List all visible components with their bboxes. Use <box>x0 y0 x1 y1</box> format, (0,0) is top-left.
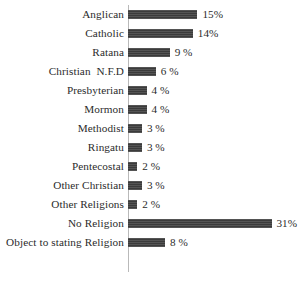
category-label: Catholic <box>0 24 128 43</box>
category-label: Other Christian <box>0 176 128 195</box>
category-label: Other Religions <box>0 195 128 214</box>
bar <box>128 181 142 190</box>
bar-track: 3 % <box>128 176 308 195</box>
bar-track: 8 % <box>128 233 308 252</box>
bar <box>128 29 193 38</box>
data-value-label: 3 % <box>147 119 165 138</box>
bar-row: Mormon4 % <box>0 100 308 119</box>
bar-row: Anglican15% <box>0 5 308 24</box>
bar-row: Other Christian3 % <box>0 176 308 195</box>
bar <box>128 162 137 171</box>
data-value-label: 31% <box>277 214 298 233</box>
bar-chart: Anglican15%Catholic14%Ratana9 %Christian… <box>0 0 308 285</box>
category-label: Methodist <box>0 119 128 138</box>
bar-track: 3 % <box>128 138 308 157</box>
bar-track: 15% <box>128 5 308 24</box>
bar <box>128 67 156 76</box>
category-label: Presbyterian <box>0 81 128 100</box>
category-label: Ratana <box>0 43 128 62</box>
category-label: Christian N.F.D <box>0 62 128 81</box>
data-value-label: 14% <box>198 24 219 43</box>
bar-track: 6 % <box>128 62 308 81</box>
bar <box>128 48 170 57</box>
bar-track: 4 % <box>128 81 308 100</box>
bar-row: No Religion31% <box>0 214 308 233</box>
bar-row: Pentecostal2 % <box>0 157 308 176</box>
bar-row: Ringatu3 % <box>0 138 308 157</box>
bar-track: 14% <box>128 24 308 43</box>
data-value-label: 4 % <box>152 100 170 119</box>
data-value-label: 9 % <box>175 43 193 62</box>
category-label: Pentecostal <box>0 157 128 176</box>
bar <box>128 200 137 209</box>
category-label: No Religion <box>0 214 128 233</box>
bar <box>128 124 142 133</box>
data-value-label: 15% <box>202 5 223 24</box>
bar-row: Presbyterian4 % <box>0 81 308 100</box>
bar-rows-container: Anglican15%Catholic14%Ratana9 %Christian… <box>0 5 308 252</box>
bar-track: 9 % <box>128 43 308 62</box>
bar-row: Catholic14% <box>0 24 308 43</box>
bar-row: Object to stating Religion8 % <box>0 233 308 252</box>
category-label: Anglican <box>0 5 128 24</box>
bar <box>128 10 197 19</box>
bar <box>128 105 147 114</box>
bar <box>128 238 165 247</box>
bar-row: Christian N.F.D6 % <box>0 62 308 81</box>
bar-track: 4 % <box>128 100 308 119</box>
bar <box>128 86 147 95</box>
bar <box>128 143 142 152</box>
bar-row: Methodist3 % <box>0 119 308 138</box>
data-value-label: 2 % <box>142 157 160 176</box>
data-value-label: 3 % <box>147 176 165 195</box>
data-value-label: 2 % <box>142 195 160 214</box>
bar-track: 31% <box>128 214 308 233</box>
bar-track: 3 % <box>128 119 308 138</box>
category-label: Mormon <box>0 100 128 119</box>
data-value-label: 8 % <box>170 233 188 252</box>
category-label: Ringatu <box>0 138 128 157</box>
bar-track: 2 % <box>128 195 308 214</box>
bar-row: Ratana9 % <box>0 43 308 62</box>
data-value-label: 6 % <box>161 62 179 81</box>
bar-row: Other Religions2 % <box>0 195 308 214</box>
data-value-label: 3 % <box>147 138 165 157</box>
bar <box>128 219 272 228</box>
data-value-label: 4 % <box>152 81 170 100</box>
category-label: Object to stating Religion <box>0 233 128 252</box>
bar-track: 2 % <box>128 157 308 176</box>
